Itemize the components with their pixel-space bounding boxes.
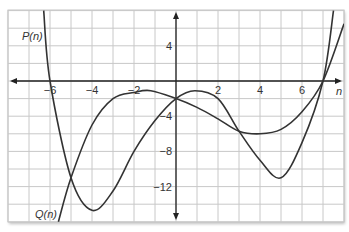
p-function-label: P(n) (22, 30, 43, 42)
x-tick-label: −2 (128, 84, 141, 96)
function-graph: −6−4−22464−4−8−12 P(n) Q(n) n (0, 0, 349, 232)
q-function-label: Q(n) (35, 208, 57, 220)
y-tick-label: −12 (153, 181, 172, 193)
x-tick-label: −4 (86, 84, 99, 96)
y-tick-label: 4 (166, 40, 172, 52)
graph-container: −6−4−22464−4−8−12 P(n) Q(n) n (0, 0, 349, 232)
y-tick-label: −4 (159, 110, 172, 122)
x-tick-label: 2 (215, 84, 221, 96)
x-axis-label: n (336, 85, 342, 97)
x-tick-label: −6 (44, 84, 57, 96)
y-tick-label: −8 (159, 145, 172, 157)
x-tick-label: 4 (257, 84, 263, 96)
x-tick-label: 6 (299, 84, 305, 96)
